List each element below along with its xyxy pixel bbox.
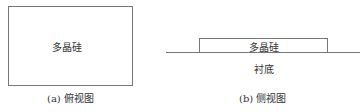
top-view-material-label: 多晶硅 [52, 39, 82, 54]
side-view-material-label: 多晶硅 [249, 39, 279, 54]
side-view-caption: (b) 侧视图 [239, 90, 286, 105]
substrate-label: 衬底 [254, 61, 274, 76]
top-view-caption: (a) 俯视图 [47, 90, 94, 105]
